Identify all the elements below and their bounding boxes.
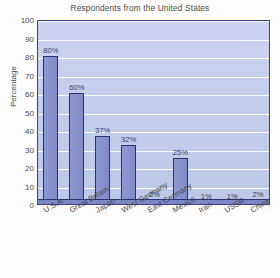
bar-value-label: 32%: [121, 135, 136, 144]
x-axis-tick-labels: U.S.A.Great BritainJapanWest GermanyEast…: [37, 207, 270, 277]
y-tick-label: 100: [14, 16, 34, 25]
bar-value-label: 60%: [69, 83, 84, 92]
y-tick-label: 80: [14, 53, 34, 62]
bar-value-label: 80%: [43, 46, 58, 55]
bar-value-label: 25%: [173, 148, 188, 157]
y-tick-label: 10: [14, 182, 34, 191]
bar: [43, 56, 58, 204]
y-axis-tick-labels: 0102030405060708090100: [14, 20, 34, 205]
y-tick-label: 60: [14, 90, 34, 99]
y-tick-label: 50: [14, 108, 34, 117]
y-tick-label: 30: [14, 145, 34, 154]
bar-chart: Respondents from the United States Perce…: [0, 0, 280, 278]
y-tick-label: 90: [14, 34, 34, 43]
chart-title: Respondents from the United States: [0, 3, 280, 13]
bar-value-label: 37%: [95, 126, 110, 135]
bar: [121, 145, 136, 204]
plot-area: 80%60%37%32%2%25%1%1%2%: [37, 20, 270, 205]
bar-series: 80%60%37%32%2%25%1%1%2%: [38, 21, 269, 204]
bar: [69, 93, 84, 204]
y-tick-label: 0: [14, 201, 34, 210]
y-tick-label: 20: [14, 164, 34, 173]
y-tick-label: 70: [14, 71, 34, 80]
y-tick-label: 40: [14, 127, 34, 136]
